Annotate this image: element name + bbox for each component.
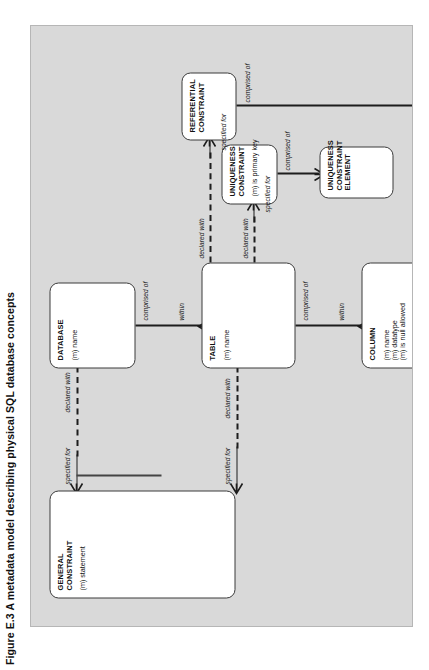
- attribute: (m) name: [222, 270, 230, 360]
- entity-uniqueness-constraint-attributes: (m) is primary key: [250, 152, 258, 196]
- entity-uniqueness-constraint-title: UNIQUENESS CONSTRAINT: [228, 152, 245, 196]
- attribute: (m) name: [70, 290, 78, 360]
- edge-label-within-1: within: [177, 303, 184, 320]
- entity-table-title: TABLE: [208, 270, 217, 360]
- entity-database-title: DATABASE: [56, 290, 65, 360]
- entity-table[interactable]: TABLE (m) name: [201, 262, 295, 368]
- entity-referential-constraint-title: REFERENTIAL CONSTRAINT: [188, 80, 205, 132]
- attribute: (m) is primary key: [250, 152, 258, 196]
- edge-database-table: [135, 325, 201, 327]
- edge-label-comprised-of-4: comprised of: [243, 63, 250, 102]
- edge-label-comprised-of-1: comprised of: [141, 281, 148, 320]
- diagram-canvas: GENERAL CONSTRAINT (m) statement DATABAS…: [31, 26, 412, 626]
- figure-caption: Figure E.3 A metadata model describing p…: [0, 0, 30, 670]
- entity-column[interactable]: COLUMN (m) name (m) datatype (m) is null…: [361, 262, 413, 368]
- edge-label-comprised-of-2: comprised of: [301, 281, 308, 320]
- edge-label-specified-for-4: specified for: [219, 113, 226, 150]
- entity-column-title: COLUMN: [368, 270, 377, 360]
- edge-table-uniqueness-constraint: [253, 216, 255, 262]
- edge-label-specified-for-2: specified for: [223, 447, 230, 484]
- attribute: (m) statement: [78, 498, 86, 590]
- edge-referential-constraint-element: [236, 105, 413, 107]
- edge-label-specified-for-1: specified for: [63, 447, 70, 484]
- figure-caption-text: Figure E.3 A metadata model describing p…: [0, 5, 25, 665]
- entity-general-constraint-attributes: (m) statement: [78, 498, 86, 590]
- edge-label-declared-with-1: declared with: [63, 372, 70, 412]
- entity-uniqueness-constraint-element[interactable]: UNIQUENESS CONSTRAINT ELEMENT: [319, 146, 393, 198]
- entity-general-constraint-title: GENERAL CONSTRAINT: [56, 498, 73, 590]
- edge-general-constraint-curve: [76, 475, 161, 477]
- entity-table-attributes: (m) name: [222, 270, 230, 360]
- edge-table-column: [295, 325, 361, 327]
- edge-label-comprised-of-3: comprised of: [283, 131, 290, 170]
- edge-label-declared-with-3: declared with: [241, 218, 248, 258]
- edge-label-declared-with-2: declared with: [223, 378, 230, 418]
- edge-label-declared-with-4: declared with: [197, 218, 204, 258]
- edge-table-referential-constraint: [209, 152, 211, 262]
- entity-referential-constraint[interactable]: REFERENTIAL CONSTRAINT: [181, 72, 236, 140]
- entity-database-attributes: (m) name: [70, 290, 78, 360]
- entity-column-attributes: (m) name (m) datatype (m) is null allowe…: [382, 270, 407, 360]
- edge-label-specified-for-3: specified for: [263, 175, 270, 212]
- entity-uniqueness-constraint-element-title: UNIQUENESS CONSTRAINT ELEMENT: [326, 154, 352, 190]
- entity-general-constraint[interactable]: GENERAL CONSTRAINT (m) statement: [49, 490, 235, 598]
- edge-label-within-2: within: [337, 303, 344, 320]
- edge-database-general-constraint: [76, 366, 78, 456]
- edge-table-general-constraint-dashed: [236, 366, 238, 448]
- attribute: (m) is null allowed: [398, 270, 406, 360]
- figure-frame: GENERAL CONSTRAINT (m) statement DATABAS…: [30, 25, 413, 627]
- entity-database[interactable]: DATABASE (m) name: [49, 282, 135, 368]
